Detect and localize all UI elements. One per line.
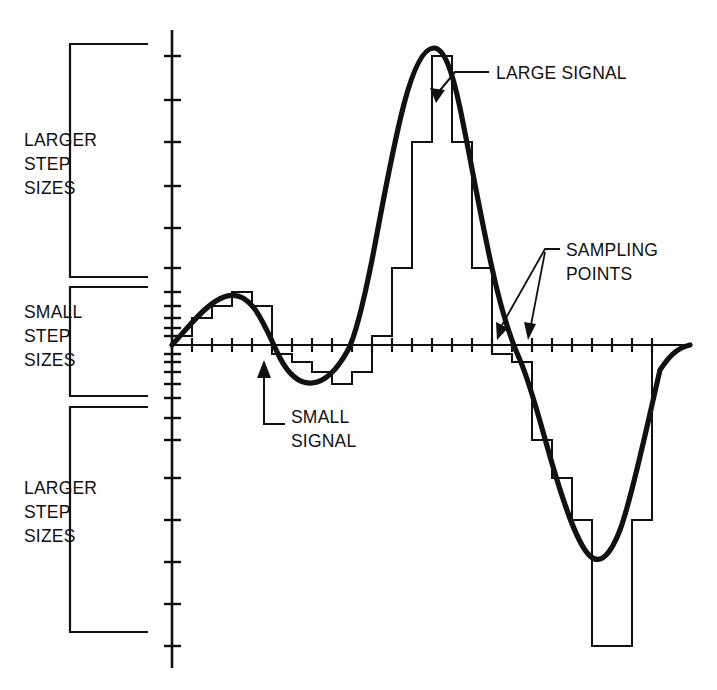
quantization-diagram: LARGER STEP SIZES SMALL STEP SIZES LARGE… [0, 0, 717, 690]
sampling-points-label-line2: POINTS [566, 264, 632, 284]
bracket-top-line1: LARGER [24, 130, 97, 150]
small-signal-label-line1: SMALL [291, 407, 349, 427]
bracket-mid-line3: SIZES [24, 350, 76, 370]
diagram-canvas: LARGER STEP SIZES SMALL STEP SIZES LARGE… [0, 0, 717, 690]
bracket-bottom-line3: SIZES [24, 526, 76, 546]
bracket-mid-line1: SMALL [24, 302, 82, 322]
large-signal-label: LARGE SIGNAL [496, 63, 627, 83]
sampling-points-label-line1: SAMPLING [566, 240, 658, 260]
bracket-bottom-line2: STEP [24, 502, 71, 522]
bracket-top-line2: STEP [24, 154, 71, 174]
small-signal-label-line2: SIGNAL [291, 431, 356, 451]
bracket-mid-line2: STEP [24, 326, 71, 346]
bracket-top-line3: SIZES [24, 178, 76, 198]
bracket-bottom-line1: LARGER [24, 478, 97, 498]
